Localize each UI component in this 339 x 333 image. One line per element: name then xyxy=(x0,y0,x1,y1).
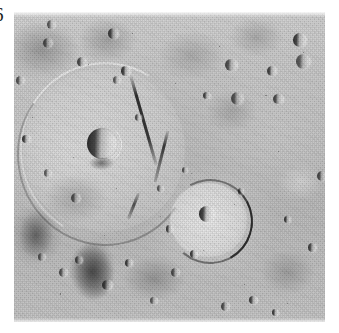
photo-top-edge-fade xyxy=(14,12,325,17)
film-grain-layer xyxy=(14,12,325,322)
photo-bottom-edge-fade xyxy=(14,318,325,322)
figure-plate: 6 xyxy=(0,0,339,333)
planetary-surface-photograph xyxy=(14,12,325,322)
figure-number-label: 6 xyxy=(0,4,12,26)
